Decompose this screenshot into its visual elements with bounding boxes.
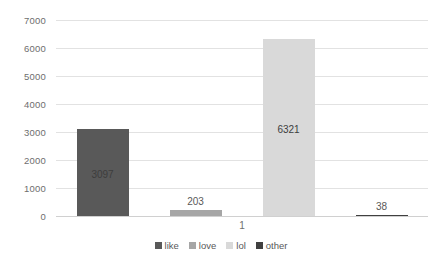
y-axis-tick-label: 1000 — [24, 183, 46, 194]
legend-label: love — [199, 240, 216, 251]
bar-other[interactable] — [356, 215, 408, 217]
gridline — [56, 216, 428, 217]
legend-swatch-icon — [189, 242, 196, 249]
legend-swatch-icon — [226, 242, 233, 249]
legend-swatch-icon — [155, 242, 162, 249]
y-axis: 01000200030004000500060007000 — [0, 20, 50, 216]
legend-item-love[interactable]: love — [189, 240, 216, 251]
y-axis-tick-label: 5000 — [24, 71, 46, 82]
y-axis-tick-label: 3000 — [24, 127, 46, 138]
legend: likelovelolother — [0, 240, 442, 251]
y-axis-tick-label: 2000 — [24, 155, 46, 166]
bar-chart: 01000200030004000500060007000 3097203632… — [0, 0, 442, 259]
x-axis-category-label: 1 — [56, 220, 428, 231]
bar-value-label: 6321 — [277, 124, 299, 135]
legend-label: lol — [236, 240, 246, 251]
bar-value-label: 3097 — [91, 169, 113, 180]
y-axis-tick-label: 6000 — [24, 43, 46, 54]
plot-area: 3097203632138 — [56, 20, 428, 216]
bar-love[interactable] — [170, 210, 222, 216]
y-axis-tick-label: 0 — [41, 211, 46, 222]
legend-swatch-icon — [256, 242, 263, 249]
bar-group: 3097203632138 — [56, 20, 428, 216]
legend-item-lol[interactable]: lol — [226, 240, 246, 251]
x-axis: 1 — [56, 220, 428, 238]
legend-label: like — [165, 240, 179, 251]
legend-item-other[interactable]: other — [256, 240, 288, 251]
bar-value-label: 38 — [376, 201, 387, 212]
y-axis-tick-label: 7000 — [24, 15, 46, 26]
bar-value-label: 203 — [187, 196, 204, 207]
legend-label: other — [266, 240, 288, 251]
y-axis-tick-label: 4000 — [24, 99, 46, 110]
legend-item-like[interactable]: like — [155, 240, 179, 251]
